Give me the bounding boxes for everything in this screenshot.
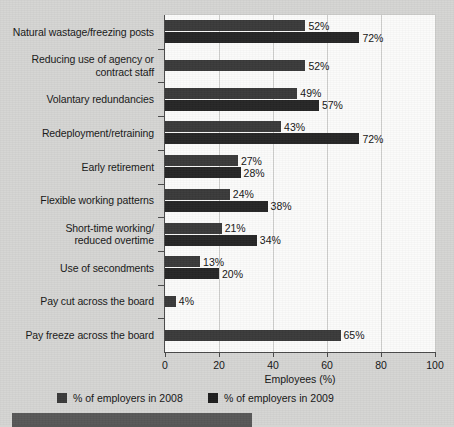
legend-swatch-icon-2008 (57, 393, 67, 403)
x-axis-line (165, 352, 435, 353)
category-label: Pay freeze across the board (0, 329, 154, 341)
bottom-caption-band (12, 413, 252, 427)
bar-2009 (165, 100, 319, 111)
bar-value-label: 49% (300, 88, 321, 99)
category-label: Flexible working patterns (0, 194, 154, 206)
category-label: Early retirement (0, 161, 154, 173)
y-tick (158, 251, 164, 252)
category-label: Pay cut across the board (0, 295, 154, 307)
y-tick (158, 150, 164, 151)
bar-value-label: 57% (322, 100, 343, 111)
category-label: Short-time working/ reduced overtime (0, 222, 154, 246)
y-tick (158, 49, 164, 50)
legend-entry-2009: % of employers in 2009 (208, 391, 334, 405)
y-axis-line (164, 15, 165, 353)
category-label: Natural wastage/freezing posts (0, 26, 154, 38)
y-tick (158, 318, 164, 319)
category-label: Use of secondments (0, 262, 154, 274)
x-tick-label: 60 (321, 359, 333, 371)
bar-2008 (165, 296, 176, 307)
bar-2008 (165, 330, 341, 341)
x-tick-label: 0 (162, 359, 168, 371)
legend-entry-2008: % of employers in 2008 (57, 391, 183, 405)
bar-2008 (165, 88, 297, 99)
x-axis-title: Employees (%) (165, 373, 435, 385)
bar-value-label: 34% (260, 235, 281, 246)
x-tick-80 (381, 352, 382, 357)
bar-value-label: 21% (225, 223, 246, 234)
y-tick (158, 82, 164, 83)
bar-value-label: 20% (222, 269, 243, 280)
bar-2008 (165, 60, 305, 71)
bar-2008 (165, 189, 230, 200)
gridline-80 (381, 15, 382, 352)
bar-value-label: 52% (308, 61, 329, 72)
bar-value-label: 4% (179, 296, 194, 307)
x-tick-label: 40 (267, 359, 279, 371)
y-tick (158, 116, 164, 117)
category-axis: Natural wastage/freezing postsReducing u… (0, 15, 160, 352)
x-tick-100 (435, 352, 436, 357)
bar-value-label: 43% (284, 122, 305, 133)
bar-value-label: 13% (203, 257, 224, 268)
bar-value-label: 52% (308, 21, 329, 32)
bar-2008 (165, 256, 200, 267)
bar-2008 (165, 223, 222, 234)
x-tick-label: 80 (375, 359, 387, 371)
bar-2008 (165, 20, 305, 31)
x-tick-20 (219, 352, 220, 357)
x-tick-40 (273, 352, 274, 357)
category-label: Reducing use of agency or contract staff (0, 53, 154, 77)
chart-legend: % of employers in 2008 % of employers in… (0, 391, 454, 407)
x-tick-0 (165, 352, 166, 357)
bar-value-label: 27% (241, 156, 262, 167)
bar-2009 (165, 32, 359, 43)
y-tick (158, 184, 164, 185)
bar-2009 (165, 133, 359, 144)
category-label: Volantary redundancies (0, 93, 154, 105)
y-tick (158, 285, 164, 286)
legend-label-2008: % of employers in 2008 (73, 391, 183, 405)
bar-2009 (165, 201, 268, 212)
bar-value-label: 65% (344, 330, 365, 341)
bar-2009 (165, 268, 219, 279)
x-tick-label: 20 (213, 359, 225, 371)
bar-value-label: 38% (271, 201, 292, 212)
bar-2009 (165, 235, 257, 246)
bar-value-label: 28% (244, 168, 265, 179)
category-label: Redeployment/retraining (0, 127, 154, 139)
legend-swatch-icon-2009 (208, 393, 218, 403)
bar-2009 (165, 167, 241, 178)
bar-value-label: 72% (362, 33, 383, 44)
x-tick-label: 100 (426, 359, 444, 371)
bar-value-label: 24% (233, 189, 254, 200)
bar-value-label: 72% (362, 134, 383, 145)
y-tick (158, 217, 164, 218)
bar-2008 (165, 121, 281, 132)
x-tick-60 (327, 352, 328, 357)
plot-area: 52%72%52%49%57%43%72%27%28%24%38%21%34%1… (165, 15, 435, 352)
legend-label-2009: % of employers in 2009 (224, 391, 334, 405)
bar-2008 (165, 155, 238, 166)
